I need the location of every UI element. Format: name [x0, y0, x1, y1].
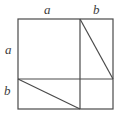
- geometric-figure: a b a b: [0, 0, 122, 121]
- label-top-segment-b: b: [93, 3, 100, 16]
- lower-diagonal-line: [18, 79, 80, 109]
- label-top-segment-a: a: [44, 3, 51, 16]
- label-left-segment-b: b: [4, 84, 11, 97]
- figure-drawing: [0, 0, 122, 121]
- upper-diagonal-line: [80, 19, 113, 79]
- outer-square-shape: [18, 19, 113, 109]
- label-left-segment-a: a: [5, 43, 12, 56]
